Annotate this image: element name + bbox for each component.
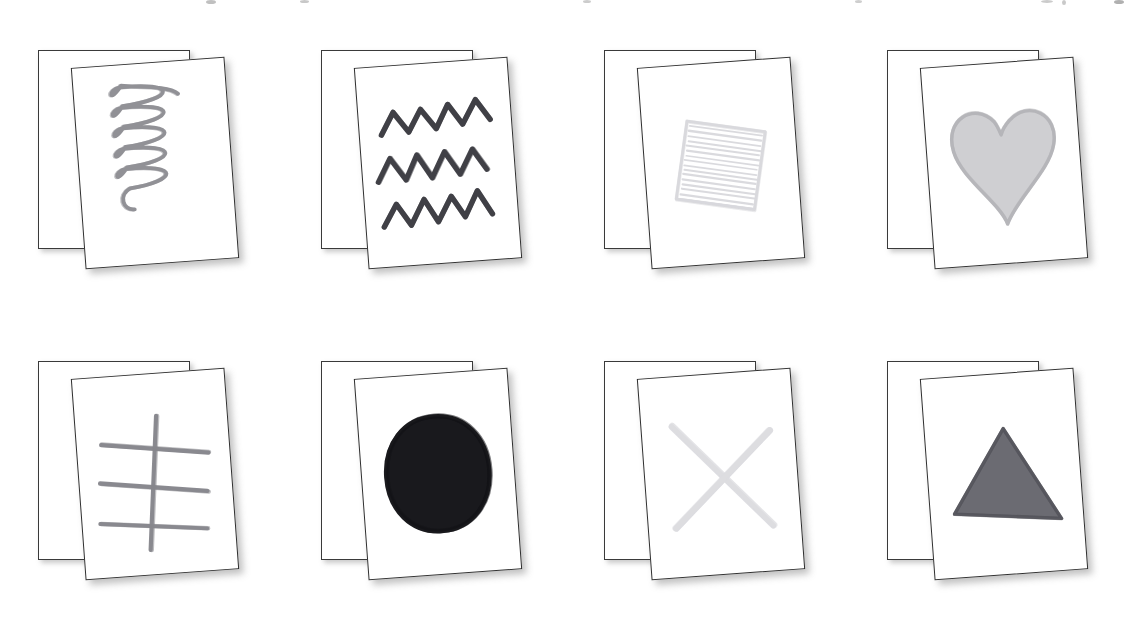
- card-front-heart[interactable]: [920, 57, 1088, 270]
- card-pair-filled-triangle[interactable]: [849, 311, 1132, 621]
- sketch-area-front: [921, 369, 1087, 580]
- sketch-square-icon: [638, 58, 804, 269]
- grid-cell: [849, 311, 1132, 621]
- card-pair-filled-circle[interactable]: [283, 311, 566, 621]
- card-front-tally-marks[interactable]: [71, 368, 239, 581]
- card-pair-zigzag-lines[interactable]: [283, 0, 566, 310]
- card-front-filled-triangle[interactable]: [920, 368, 1088, 581]
- sketch-spiral-icon: [72, 58, 238, 269]
- sketch-area-front: [355, 369, 521, 580]
- card-front-square[interactable]: [637, 57, 805, 270]
- grid-cell: [283, 311, 566, 621]
- sketch-area-front: [72, 369, 238, 580]
- card-front-zigzag-lines[interactable]: [354, 57, 522, 270]
- grid-cell: [0, 0, 283, 310]
- sketch-tally-marks-icon: [72, 369, 238, 580]
- sketch-area-front: [72, 58, 238, 269]
- sketch-area-front: [921, 58, 1087, 269]
- grid-cell: [566, 0, 849, 310]
- sketch-area-front: [355, 58, 521, 269]
- sketch-heart-icon: [921, 58, 1087, 269]
- sketch-filled-circle-icon: [355, 369, 521, 580]
- card-front-spiral[interactable]: [71, 57, 239, 270]
- grid-cell: [566, 311, 849, 621]
- card-pair-heart[interactable]: [849, 0, 1132, 310]
- grid-cell: [283, 0, 566, 310]
- sketch-zigzag-lines-icon: [355, 58, 521, 269]
- grid-cell: [849, 0, 1132, 310]
- card-front-cross-x[interactable]: [637, 368, 805, 581]
- card-pair-spiral[interactable]: [0, 0, 283, 310]
- sketch-filled-triangle-icon: [921, 369, 1087, 580]
- grid-cell: [0, 311, 283, 621]
- card-pair-tally-marks[interactable]: [0, 311, 283, 621]
- card-grid: [0, 0, 1135, 621]
- card-front-filled-circle[interactable]: [354, 368, 522, 581]
- card-pair-square[interactable]: [566, 0, 849, 310]
- sketch-cross-x-icon: [638, 369, 804, 580]
- card-pair-cross-x[interactable]: [566, 311, 849, 621]
- sketch-area-front: [638, 369, 804, 580]
- sketch-area-front: [638, 58, 804, 269]
